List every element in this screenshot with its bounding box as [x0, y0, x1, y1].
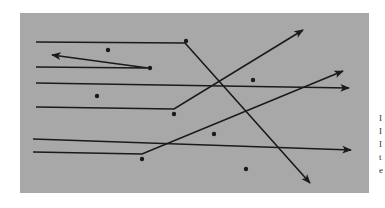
point-dot — [95, 94, 99, 98]
caption-fragment: t — [379, 151, 385, 164]
point-dot — [148, 66, 152, 70]
point-dot — [184, 39, 188, 43]
caption-fragment: I — [379, 112, 385, 125]
diagram-panel — [20, 13, 369, 193]
caption-fragment: e — [379, 164, 385, 177]
caption-fragment: I — [379, 125, 385, 138]
point-dot — [172, 112, 176, 116]
caption-fragment: I — [379, 138, 385, 151]
trajectory-diagram — [0, 0, 385, 208]
point-dot — [140, 157, 144, 161]
point-dot — [244, 167, 248, 171]
point-dot — [212, 132, 216, 136]
point-dot — [106, 48, 110, 52]
point-dot — [251, 78, 255, 82]
